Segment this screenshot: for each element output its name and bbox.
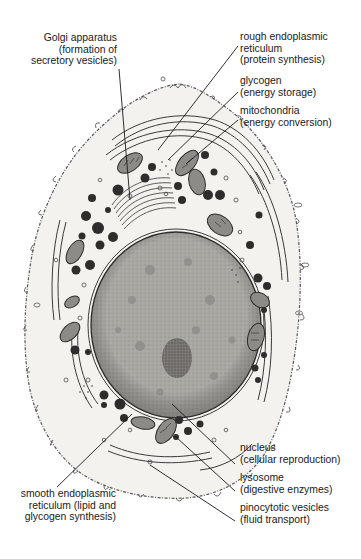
nucleolus [162,338,192,378]
nucleus-name: nucleus [240,442,341,454]
rough-er-name-2: reticulum [240,43,328,55]
label-nucleus: nucleus (cellular reproduction) [240,442,341,465]
label-pinocytotic-vesicles: pinocytotic vesicles (fluid transport) [240,502,329,525]
lysosome-function: (digestive enzymes) [240,484,332,496]
pinocytotic-name: pinocytotic vesicles [240,502,329,514]
nucleus [88,229,264,421]
label-golgi-apparatus: Golgi apparatus (formation of secretory … [25,32,117,67]
golgi-function-2: secretory vesicles) [25,55,117,67]
smooth-er-function: glycogen synthesis) [10,511,116,523]
glycogen-function: (energy storage) [240,87,316,99]
rough-er-function: (protein synthesis) [240,54,328,66]
pinocytotic-function: (fluid transport) [240,514,329,526]
lysosome-name: lysosome [240,472,332,484]
label-smooth-er: smooth endoplasmic reticulum (lipid and … [10,488,116,523]
golgi-name: Golgi apparatus [25,32,117,44]
label-rough-er: rough endoplasmic reticulum (protein syn… [240,31,328,66]
label-mitochondria: mitochondria (energy conversion) [240,105,332,128]
smooth-er-name-2: reticulum (lipid and [10,500,116,512]
label-glycogen: glycogen (energy storage) [240,75,316,98]
rough-er-name: rough endoplasmic [240,31,328,43]
glycogen-name: glycogen [240,75,316,87]
label-lysosome: lysosome (digestive enzymes) [240,472,332,495]
golgi-function-1: (formation of [25,44,117,56]
mitochondria-function: (energy conversion) [240,117,332,129]
mitochondria-name: mitochondria [240,105,332,117]
nucleus-function: (cellular reproduction) [240,454,341,466]
smooth-er-name: smooth endoplasmic [10,488,116,500]
